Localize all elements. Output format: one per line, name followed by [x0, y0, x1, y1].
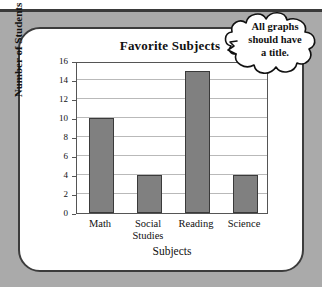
x-tick-label-math: Math — [76, 218, 124, 230]
y-tick-mark — [72, 176, 76, 177]
y-tick-label: 8 — [46, 132, 68, 142]
bar-social-studies — [137, 175, 162, 213]
x-tick-label-line: Social — [124, 218, 172, 230]
y-tick-label: 16 — [46, 56, 68, 66]
x-tick-label-line: Studies — [124, 230, 172, 242]
bubble-line-1: All graphs — [232, 20, 318, 33]
x-tick-label-line: Math — [76, 218, 124, 230]
y-tick-label: 2 — [46, 189, 68, 199]
y-tick-mark — [72, 157, 76, 158]
y-tick-label: 4 — [46, 170, 68, 180]
y-tick-label: 12 — [46, 94, 68, 104]
y-tick-mark — [72, 100, 76, 101]
y-tick-label: 6 — [46, 151, 68, 161]
bubble-line-2: should have — [232, 33, 318, 46]
annotation-speech-bubble: All graphs should have a title. — [215, 6, 322, 82]
y-tick-mark — [72, 138, 76, 139]
y-axis-title: Number of Students — [12, 0, 24, 130]
y-tick-mark — [72, 62, 76, 63]
plot-area — [76, 62, 268, 214]
bar-math — [89, 118, 114, 213]
x-tick-label-line: Reading — [172, 218, 220, 230]
y-tick-mark — [72, 81, 76, 82]
y-tick-label: 14 — [46, 75, 68, 85]
bar-series — [77, 63, 267, 213]
x-tick-label-social-studies: SocialStudies — [124, 218, 172, 242]
bar-reading — [185, 71, 210, 214]
x-axis-title: Subjects — [76, 245, 268, 257]
x-tick-label-reading: Reading — [172, 218, 220, 230]
x-tick-label-line: Science — [220, 218, 268, 230]
x-tick-label-science: Science — [220, 218, 268, 230]
y-tick-mark — [72, 214, 76, 215]
y-tick-label: 10 — [46, 113, 68, 123]
y-tick-mark — [72, 119, 76, 120]
bar-science — [233, 175, 258, 213]
annotation-bubble-text: All graphs should have a title. — [232, 20, 318, 59]
y-tick-mark — [72, 195, 76, 196]
y-tick-label: 0 — [46, 208, 68, 218]
screenshot-root: Favorite Subjects 0246810121416 MathSoci… — [0, 0, 322, 287]
bubble-line-3: a title. — [232, 46, 318, 59]
